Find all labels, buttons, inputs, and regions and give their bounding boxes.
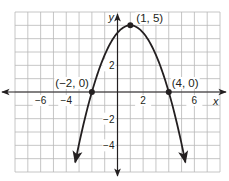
y-axis-label: y xyxy=(108,11,116,23)
parabola-graph: −6−4262−2−4 (1, 5)(−2, 0)(4, 0) x y xyxy=(0,0,229,181)
x-axis-label: x xyxy=(212,95,219,107)
labeled-points: (1, 5)(−2, 0)(4, 0) xyxy=(54,12,199,95)
y-tick-label: 2 xyxy=(109,60,115,71)
point-label: (4, 0) xyxy=(172,77,199,89)
point-marker xyxy=(89,89,95,95)
x-tick-label: 2 xyxy=(140,95,146,106)
point-label: (−2, 0) xyxy=(55,77,89,89)
y-tick-label: −2 xyxy=(103,114,115,125)
point-label: (1, 5) xyxy=(136,12,163,24)
x-tick-label: 6 xyxy=(192,95,198,106)
point-marker xyxy=(166,89,172,95)
y-tick-label: −4 xyxy=(103,140,115,151)
point-marker xyxy=(127,22,133,28)
x-tick-label: −6 xyxy=(35,95,47,106)
x-tick-label: −4 xyxy=(61,95,73,106)
